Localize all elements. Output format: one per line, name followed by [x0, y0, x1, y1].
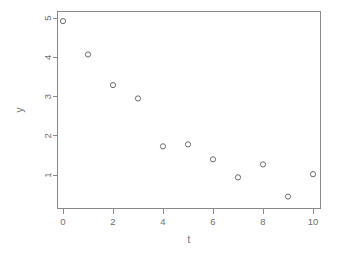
y-axis-title: y [14, 108, 25, 113]
data-point-marker [260, 162, 265, 167]
y-axis-tick-label: 2 [42, 133, 53, 138]
data-point-marker [310, 172, 315, 177]
data-point-marker [110, 83, 115, 88]
x-axis-tick-label: 10 [308, 216, 319, 227]
x-axis-tick-label: 8 [260, 216, 265, 227]
y-axis-tick-label: 5 [42, 15, 53, 20]
data-point-marker [85, 52, 90, 57]
x-axis-title: t [188, 234, 191, 245]
scatter-plot-figure: 024681012345ty [0, 0, 338, 261]
plot-frame [58, 12, 321, 209]
data-point-marker [210, 157, 215, 162]
data-point-marker [235, 175, 240, 180]
data-point-marker [60, 19, 65, 24]
x-axis-tick-label: 0 [60, 216, 65, 227]
x-axis-tick-label: 6 [210, 216, 215, 227]
data-point-marker [160, 144, 165, 149]
plot-canvas: 024681012345ty [0, 0, 338, 261]
x-axis-tick-label: 2 [110, 216, 115, 227]
y-axis-tick-label: 1 [42, 172, 53, 177]
y-axis-tick-label: 3 [42, 94, 53, 99]
data-point-marker [135, 96, 140, 101]
y-axis-tick-label: 4 [42, 55, 53, 60]
data-point-marker [185, 142, 190, 147]
x-axis-tick-label: 4 [160, 216, 165, 227]
data-point-marker [285, 194, 290, 199]
